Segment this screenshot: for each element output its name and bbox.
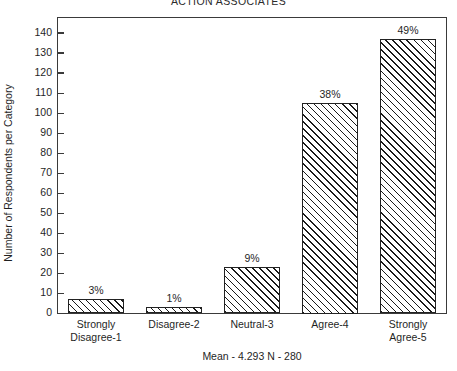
y-axis-tick-mark bbox=[57, 113, 64, 114]
bar-value-label: 49% bbox=[378, 24, 438, 36]
x-axis-category-label: Agree-4 bbox=[291, 318, 369, 331]
bar bbox=[302, 103, 358, 313]
bar bbox=[224, 267, 280, 313]
chart-title: ACTION ASSOCIATES bbox=[0, 0, 457, 7]
y-axis-tick-mark bbox=[57, 32, 64, 33]
y-axis-tick-mark bbox=[57, 133, 64, 134]
y-axis-tick-mark bbox=[57, 72, 64, 73]
y-axis-tick-label: 50 bbox=[0, 206, 52, 218]
y-axis-tick-label: 40 bbox=[0, 226, 52, 238]
y-axis-tick-label: 90 bbox=[0, 126, 52, 138]
chart-footnote: Mean - 4.293 N - 280 bbox=[57, 350, 447, 362]
x-axis-category-label-line: Agree-5 bbox=[369, 331, 447, 344]
y-axis-tick-mark bbox=[57, 93, 64, 94]
y-axis-tick-mark bbox=[57, 213, 64, 214]
y-axis-tick-mark bbox=[57, 253, 64, 254]
bar bbox=[146, 307, 202, 313]
x-axis-category-label: Neutral-3 bbox=[213, 318, 291, 331]
y-axis-tick-label: 100 bbox=[0, 106, 52, 118]
y-axis-tick-label: 0 bbox=[0, 306, 52, 318]
x-axis-category-label: Disagree-2 bbox=[135, 318, 213, 331]
y-axis-tick-label: 140 bbox=[0, 26, 52, 38]
y-axis-tick-mark bbox=[57, 173, 64, 174]
bar-value-label: 38% bbox=[300, 88, 360, 100]
bar-value-label: 1% bbox=[144, 292, 204, 304]
y-axis-tick-label: 110 bbox=[0, 86, 52, 98]
y-axis-tick-mark bbox=[57, 52, 64, 53]
y-axis-tick-label: 60 bbox=[0, 186, 52, 198]
y-axis-tick-label: 20 bbox=[0, 266, 52, 278]
y-axis-tick-mark bbox=[57, 233, 64, 234]
y-axis-tick-label: 30 bbox=[0, 246, 52, 258]
y-axis-tick-mark bbox=[57, 273, 64, 274]
bar bbox=[380, 39, 436, 313]
y-axis-tick-label: 120 bbox=[0, 66, 52, 78]
y-axis-tick-label: 80 bbox=[0, 146, 52, 158]
x-axis-category-label-line: Disagree-2 bbox=[135, 318, 213, 331]
y-axis-tick-label: 130 bbox=[0, 46, 52, 58]
x-axis-category-label-line: Neutral-3 bbox=[213, 318, 291, 331]
x-axis-category-label: StronglyDisagree-1 bbox=[57, 318, 135, 343]
x-axis-category-label-line: Disagree-1 bbox=[57, 331, 135, 344]
y-axis-tick-label: 70 bbox=[0, 166, 52, 178]
x-axis-category-label-line: Strongly bbox=[57, 318, 135, 331]
y-axis-tick-mark bbox=[57, 193, 64, 194]
bar-value-label: 3% bbox=[66, 284, 126, 296]
y-axis-tick-label: 10 bbox=[0, 286, 52, 298]
x-axis-category-label-line: Agree-4 bbox=[291, 318, 369, 331]
y-axis-tick-mark bbox=[57, 293, 64, 294]
bar bbox=[68, 299, 124, 313]
y-axis-tick-mark bbox=[57, 313, 64, 314]
x-axis-category-label: StronglyAgree-5 bbox=[369, 318, 447, 343]
y-axis-tick-mark bbox=[57, 153, 64, 154]
bar-value-label: 9% bbox=[222, 252, 282, 264]
x-axis-category-label-line: Strongly bbox=[369, 318, 447, 331]
